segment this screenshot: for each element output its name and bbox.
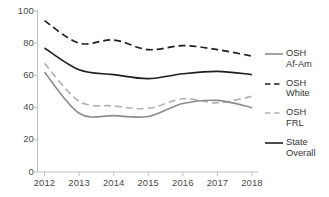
series-line-state-overall xyxy=(45,48,253,79)
legend-label: OSH White xyxy=(286,78,310,99)
y-axis-tick-label: 40 xyxy=(8,102,34,112)
y-axis-tick-label: 20 xyxy=(8,134,34,144)
x-axis-tick-label: 2012 xyxy=(28,177,62,188)
y-axis-tick-label: 0 xyxy=(8,167,34,177)
plot-area: 020406080100 201220132014201520162017201… xyxy=(0,0,265,197)
x-axis-tick-labels: 2012201320142015201620172018 xyxy=(38,175,260,191)
legend-line-swatch-icon xyxy=(265,108,283,118)
x-axis-tick-label: 2013 xyxy=(62,177,96,188)
legend-item-state-overall[interactable]: State Overall xyxy=(265,137,329,158)
series-line-osh-frl xyxy=(45,63,253,108)
legend-line-swatch-icon xyxy=(265,79,283,89)
x-axis-tick-label: 2014 xyxy=(97,177,131,188)
line-chart: 020406080100 201220132014201520162017201… xyxy=(0,0,329,197)
legend-item-osh-af-am[interactable]: OSH Af-Am xyxy=(265,48,329,69)
y-axis-tick-labels: 020406080100 xyxy=(0,0,34,197)
legend-item-osh-white[interactable]: OSH White xyxy=(265,78,329,99)
legend-line-swatch-icon xyxy=(265,138,283,148)
legend-line-swatch-icon xyxy=(265,49,283,59)
legend-label: State Overall xyxy=(286,137,315,158)
x-axis-tick-label: 2015 xyxy=(131,177,165,188)
plot-canvas xyxy=(0,0,265,197)
y-axis-tick-label: 80 xyxy=(8,38,34,48)
y-axis-tick-label: 100 xyxy=(8,6,34,16)
legend-label: OSH FRL xyxy=(286,107,306,128)
y-axis-tick-label: 60 xyxy=(8,70,34,80)
series-layer xyxy=(45,21,253,118)
x-axis-tick-label: 2017 xyxy=(200,177,234,188)
chart-legend: OSH Af-AmOSH WhiteOSH FRLState Overall xyxy=(265,48,329,167)
x-axis-tick-label: 2018 xyxy=(235,177,269,188)
series-line-osh-white xyxy=(45,21,253,56)
legend-item-osh-frl[interactable]: OSH FRL xyxy=(265,107,329,128)
legend-label: OSH Af-Am xyxy=(286,48,312,69)
y-axis-ticks xyxy=(34,11,38,172)
x-axis-tick-label: 2016 xyxy=(166,177,200,188)
